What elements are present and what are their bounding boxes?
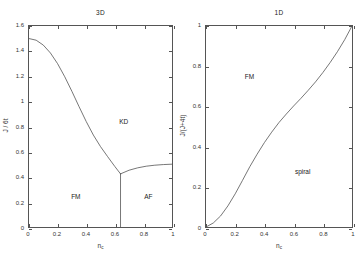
- panel-1d-ytick: [349, 107, 352, 108]
- panel-3d-yticklabel: 1.4: [2, 47, 24, 53]
- panel-1d-xticklabel: 0.4: [260, 231, 268, 237]
- region-label-fm: FM: [71, 193, 80, 200]
- panel-3d-xticklabel: 1: [171, 231, 174, 237]
- panel-3d-yticklabel: 0: [2, 225, 24, 231]
- panel-1d-xtick: [295, 26, 296, 29]
- panel-1d: 1D nc J/(J+4t) 00.20.40.60.8100.20.40.60…: [180, 0, 360, 260]
- panel-1d-yticklabel: 0.2: [179, 184, 201, 190]
- panel-3d-xaxis-label-sub: c: [101, 245, 103, 250]
- panel-3d-xtick: [58, 224, 59, 227]
- panel-1d-ytick: [206, 229, 209, 230]
- panel-3d-ytick: [169, 229, 172, 230]
- panel-1d-yticklabel: 0: [179, 225, 201, 231]
- region-label-fm: FM: [245, 72, 254, 79]
- panel-3d-yticklabel: 0.2: [2, 200, 24, 206]
- panel-3d-yticklabel: 0.8: [2, 124, 24, 130]
- curve-kd-af-phase-boundary: [121, 164, 172, 174]
- panel-3d-ytick: [29, 153, 32, 154]
- panel-3d-xtick: [29, 224, 30, 227]
- panel-1d-xtick: [324, 224, 325, 227]
- panel-3d-xtick: [116, 224, 117, 227]
- panel-3d-ytick: [169, 26, 172, 27]
- panel-1d-yticklabel: 0.4: [179, 144, 201, 150]
- panel-1d-ytick: [206, 26, 209, 27]
- region-label-af: AF: [144, 193, 152, 200]
- panel-1d-ytick: [349, 188, 352, 189]
- panel-1d-xtick: [324, 26, 325, 29]
- panel-1d-xtick: [354, 26, 355, 29]
- panel-1d-ytick: [349, 148, 352, 149]
- panel-1d-ytick: [349, 67, 352, 68]
- panel-3d-xticklabel: 0.2: [53, 231, 61, 237]
- panel-3d-ytick: [169, 178, 172, 179]
- panel-1d-ytick: [349, 229, 352, 230]
- panel-3d-ytick: [29, 51, 32, 52]
- panel-3d-xticklabel: 0.6: [111, 231, 119, 237]
- panel-3d-ytick: [29, 204, 32, 205]
- panel-3d-xtick: [116, 26, 117, 29]
- panel-1d-xaxis-label: nc: [276, 242, 282, 250]
- panel-1d-ytick: [206, 107, 209, 108]
- panel-3d-yticklabel: 0.4: [2, 174, 24, 180]
- panel-3d-ytick: [29, 229, 32, 230]
- panel-3d-ytick: [169, 102, 172, 103]
- panel-3d-yticklabel: 0.6: [2, 149, 24, 155]
- panel-1d-xticklabel: 0: [203, 231, 206, 237]
- panel-3d-xticklabel: 0.4: [82, 231, 90, 237]
- region-label-spiral: spiral: [295, 168, 311, 175]
- panel-3d-ytick: [169, 51, 172, 52]
- panel-1d-ytick: [206, 148, 209, 149]
- panel-3d: 3D nc J / 6t 00.20.40.60.8100.20.40.60.8…: [0, 0, 180, 260]
- panel-3d-ytick: [29, 178, 32, 179]
- panel-3d-xaxis-label: nc: [98, 242, 104, 250]
- panel-3d-yticklabel: 1.6: [2, 22, 24, 28]
- panel-1d-xticklabel: 0.8: [319, 231, 327, 237]
- panel-3d-xtick: [145, 224, 146, 227]
- panel-3d-ytick: [29, 26, 32, 27]
- panel-3d-xtick: [174, 224, 175, 227]
- panel-1d-xtick: [265, 26, 266, 29]
- curve-fm-spiral-phase-boundary: [206, 26, 352, 227]
- panel-3d-title: 3D: [28, 9, 173, 16]
- panel-3d-xtick: [145, 26, 146, 29]
- panel-3d-xticklabel: 0: [26, 231, 29, 237]
- curve-fm-kd-phase-boundary: [29, 39, 121, 174]
- panel-3d-ytick: [29, 102, 32, 103]
- panel-1d-curves: [206, 26, 352, 227]
- panel-1d-xtick: [236, 224, 237, 227]
- panel-1d-xtick: [206, 224, 207, 227]
- panel-1d-ytick: [206, 188, 209, 189]
- panel-1d-yticklabel: 1: [179, 22, 201, 28]
- panel-3d-xtick: [87, 26, 88, 29]
- panel-3d-ytick: [29, 128, 32, 129]
- panel-1d-xaxis-label-sub: c: [280, 245, 282, 250]
- panel-1d-ytick: [206, 67, 209, 68]
- panel-3d-ytick: [169, 153, 172, 154]
- panel-1d-yticklabel: 0.8: [179, 63, 201, 69]
- panel-1d-yticklabel: 0.6: [179, 103, 201, 109]
- panel-3d-xtick: [58, 26, 59, 29]
- panel-1d-xticklabel: 0.2: [230, 231, 238, 237]
- panel-1d-xticklabel: 1: [351, 231, 354, 237]
- panel-3d-ytick: [169, 77, 172, 78]
- panel-3d-xtick: [87, 224, 88, 227]
- panel-3d-xticklabel: 0.8: [140, 231, 148, 237]
- panel-1d-xtick: [236, 26, 237, 29]
- panel-3d-ytick: [29, 77, 32, 78]
- panel-1d-xtick: [265, 224, 266, 227]
- phase-diagram-figure: 3D nc J / 6t 00.20.40.60.8100.20.40.60.8…: [0, 0, 360, 260]
- panel-1d-title: 1D: [205, 9, 353, 16]
- panel-3d-ytick: [169, 204, 172, 205]
- panel-1d-plot-area: [205, 25, 353, 228]
- panel-1d-xtick: [354, 224, 355, 227]
- panel-1d-ytick: [349, 26, 352, 27]
- panel-3d-yticklabel: 1.2: [2, 73, 24, 79]
- panel-3d-ytick: [169, 128, 172, 129]
- region-label-kd: KD: [119, 118, 128, 125]
- panel-3d-yticklabel: 1: [2, 98, 24, 104]
- panel-1d-xtick: [295, 224, 296, 227]
- panel-3d-xtick: [174, 26, 175, 29]
- panel-1d-xticklabel: 0.6: [290, 231, 298, 237]
